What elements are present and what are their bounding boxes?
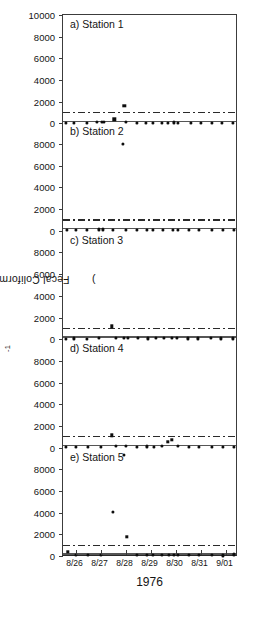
figure-root: Fecal Coliforms (cells · 100ml-1) 020004…	[0, 0, 253, 627]
data-point	[145, 553, 148, 556]
y-tick-d-4000: 4000	[59, 404, 63, 405]
y-tick-label: 8000	[34, 139, 55, 150]
x-tick-9/01	[226, 550, 227, 555]
data-point	[176, 553, 179, 556]
panel-caption-b: b) Station 2	[70, 125, 124, 137]
data-point	[66, 550, 69, 553]
data-point	[170, 438, 173, 441]
plot-area-a: 0200040006000800010000	[63, 15, 236, 122]
y-tick-c-8000: 8000	[59, 252, 63, 253]
data-point	[113, 118, 116, 121]
plot-area-d: 02000400060008000	[63, 339, 236, 447]
y-tick-e-6000: 6000	[59, 491, 63, 492]
panel-stack: 0200040006000800010000a) Station 1020004…	[62, 14, 237, 556]
y-tick-label: 8000	[34, 247, 55, 258]
x-tick-label: 8/28	[116, 558, 133, 568]
data-point	[135, 553, 138, 556]
y-tick-e-8000: 8000	[59, 469, 63, 470]
y-tick-d-8000: 8000	[59, 361, 63, 362]
y-tick-a-4000: 4000	[59, 80, 63, 81]
y-tick-label: 0	[50, 443, 55, 454]
y-tick-a-10000: 10000	[59, 15, 63, 16]
y-tick-label: 6000	[34, 161, 55, 172]
y-tick-label: 2000	[34, 204, 55, 215]
y-tick-e-0: 0	[59, 556, 63, 557]
panel-station-2: 02000400060008000b) Station 2	[62, 122, 237, 230]
panel-caption-a: a) Station 1	[70, 18, 124, 30]
y-tick-label: 8000	[34, 356, 55, 367]
data-point	[151, 553, 154, 556]
panel-station-5: 02000400060008000e) Station 5	[62, 448, 237, 556]
x-tick-label: 8/26	[66, 558, 83, 568]
y-tick-label: 0	[50, 334, 55, 345]
y-tick-label: 0	[50, 118, 55, 129]
data-point	[210, 554, 213, 557]
x-tick-8/30	[176, 550, 177, 555]
y-tick-b-4000: 4000	[59, 187, 63, 188]
x-tick-8/27	[101, 550, 102, 555]
x-tick-8/31	[201, 550, 202, 555]
y-tick-label: 6000	[34, 486, 55, 497]
x-tick-8/26	[76, 550, 77, 555]
x-tick-label: 8/27	[91, 558, 108, 568]
y-tick-a-8000: 8000	[59, 37, 63, 38]
plot-area-e: 02000400060008000	[63, 448, 236, 555]
x-tick-label: 9/01	[216, 558, 233, 568]
y-tick-c-6000: 6000	[59, 274, 63, 275]
data-point	[110, 433, 113, 436]
panel-station-4: 02000400060008000d) Station 4	[62, 339, 237, 447]
x-tick-8/28	[126, 550, 127, 555]
y-tick-b-2000: 2000	[59, 209, 63, 210]
x-tick-label: 8/30	[166, 558, 183, 568]
y-tick-label: 6000	[34, 269, 55, 280]
y-tick-label: 4000	[34, 75, 55, 86]
y-tick-a-6000: 6000	[59, 58, 63, 59]
x-axis-tick-labels: 8/268/278/288/298/308/319/01	[62, 558, 237, 572]
data-point	[123, 104, 126, 107]
y-tick-d-2000: 2000	[59, 426, 63, 427]
y-tick-label: 2000	[34, 313, 55, 324]
panel-caption-e: e) Station 5	[70, 451, 124, 463]
y-tick-label: 6000	[34, 378, 55, 389]
data-point	[233, 553, 236, 556]
y-tick-label: 6000	[34, 53, 55, 64]
panel-station-3: 02000400060008000c) Station 3	[62, 231, 237, 339]
data-point	[86, 554, 89, 557]
data-point	[188, 553, 191, 556]
y-tick-e-2000: 2000	[59, 534, 63, 535]
y-axis-title-exponent: -1	[3, 345, 12, 352]
data-point	[168, 553, 171, 556]
plot-area-c: 02000400060008000	[63, 231, 236, 339]
y-tick-c-4000: 4000	[59, 296, 63, 297]
panel-caption-c: c) Station 3	[70, 234, 123, 246]
y-tick-label: 0	[50, 226, 55, 237]
x-axis-title: 1976	[62, 575, 237, 589]
y-tick-d-6000: 6000	[59, 383, 63, 384]
y-tick-a-2000: 2000	[59, 102, 63, 103]
y-tick-label: 4000	[34, 291, 55, 302]
y-tick-b-6000: 6000	[59, 166, 63, 167]
data-point	[125, 535, 128, 538]
y-tick-c-2000: 2000	[59, 318, 63, 319]
data-point	[160, 553, 163, 556]
x-tick-label: 8/29	[141, 558, 158, 568]
y-tick-label: 8000	[34, 32, 55, 43]
y-tick-label: 2000	[34, 421, 55, 432]
y-tick-label: 4000	[34, 182, 55, 193]
y-axis-title: Fecal Coliforms (cells · 100ml-1)	[0, 0, 20, 560]
data-point	[121, 142, 124, 145]
data-point	[110, 324, 113, 327]
data-point	[221, 554, 224, 557]
y-tick-label: 2000	[34, 97, 55, 108]
data-point	[111, 510, 114, 513]
x-tick-label: 8/31	[191, 558, 208, 568]
plot-area-b: 02000400060008000	[63, 122, 236, 230]
y-tick-label: 8000	[34, 464, 55, 475]
y-tick-label: 2000	[34, 529, 55, 540]
y-tick-label: 4000	[34, 508, 55, 519]
panel-station-1: 0200040006000800010000a) Station 1	[62, 14, 237, 122]
y-tick-label: 4000	[34, 399, 55, 410]
x-tick-8/29	[151, 550, 152, 555]
panel-caption-d: d) Station 4	[70, 342, 124, 354]
y-tick-b-8000: 8000	[59, 144, 63, 145]
